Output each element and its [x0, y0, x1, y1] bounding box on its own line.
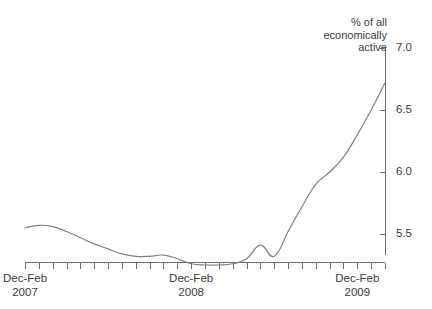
y-axis-ticks: [380, 49, 386, 235]
y-axis-tick-label: 5.5: [396, 227, 412, 239]
x-axis-tick-label: Dec-Feb 2009: [317, 271, 397, 299]
y-axis-tick-label: 6.0: [396, 165, 412, 177]
y-axis-group: [380, 48, 386, 255]
y-axis-tick-label: 7.0: [396, 41, 412, 53]
x-axis-tick-label: Dec-Feb 2007: [0, 271, 65, 299]
x-axis-tick-label: Dec-Feb 2008: [151, 271, 231, 299]
y-axis-tick-label: 6.5: [396, 103, 412, 115]
chart-container: % of all economically active 5.56.06.57.…: [0, 0, 432, 309]
y-axis-title: % of all economically active: [277, 16, 387, 54]
data-series-line: [25, 83, 385, 265]
